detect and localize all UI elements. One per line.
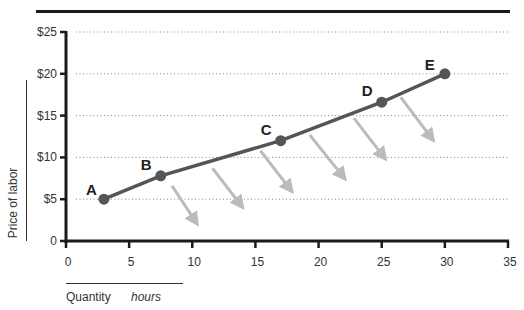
x-tick-label: 10 [188, 255, 202, 269]
shift-arrow [401, 97, 434, 140]
xlabel-rule [66, 283, 183, 284]
point-label-a: A [86, 181, 97, 198]
x-tick-label: 30 [440, 255, 454, 269]
point-label-d: D [362, 82, 373, 99]
x-tick-label: 25 [377, 255, 391, 269]
shift-arrow [310, 135, 345, 179]
data-point-e [439, 68, 450, 79]
x-tick-label: 15 [251, 255, 265, 269]
data-point-c [275, 135, 286, 146]
data-point-b [155, 170, 166, 181]
point-label-c: C [261, 121, 272, 138]
y-tick-label: $5 [44, 192, 58, 206]
point-label-e: E [425, 56, 435, 73]
labor-supply-chart: 0$5$10$15$20$2505101520253035ABCDE [0, 0, 524, 310]
shift-arrow [354, 118, 386, 159]
ylabel-rule [26, 80, 27, 241]
data-point-d [376, 97, 387, 108]
y-tick-label: $15 [37, 109, 57, 123]
point-label-b: B [141, 156, 152, 173]
y-tick-label: $25 [37, 25, 57, 39]
y-tick-label: $10 [37, 150, 57, 164]
y-axis-label: Price of labor [6, 158, 20, 248]
x-tick-label: 35 [503, 255, 517, 269]
y-tick-label: $20 [37, 67, 57, 81]
y-tick-label: 0 [50, 234, 57, 248]
data-point-a [98, 194, 109, 205]
x-tick-label: 0 [65, 255, 72, 269]
supply-line [104, 74, 445, 199]
shift-arrow [172, 186, 197, 224]
shift-arrow [260, 151, 292, 192]
x-axis-label: Quantity [66, 290, 111, 304]
x-tick-label: 20 [314, 255, 328, 269]
x-tick-label: 5 [128, 255, 135, 269]
shift-arrow [212, 168, 242, 207]
x-axis-unit: hours [131, 290, 161, 304]
